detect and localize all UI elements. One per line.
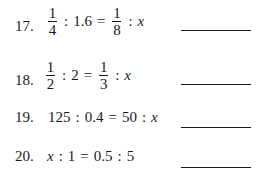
equals-sign: = [80,148,88,165]
problem-number: 20. [15,148,34,165]
problem-number: 17. [15,18,34,35]
fraction: 1 3 [99,60,108,91]
term: 2 [71,67,79,84]
proportion-expression: 125 : 0.4 = 50 : x [48,109,158,126]
numerator: 1 [49,6,57,20]
numerator: 1 [100,60,108,74]
ratio-colon: : [62,67,66,84]
proportion-expression: 1 2 : 2 = 1 3 : x [44,60,131,91]
answer-blank[interactable] [181,167,251,168]
ratio-colon: : [64,13,68,30]
proportion-expression: 1 4 : 1.6 = 1 8 : x [46,6,144,37]
fraction: 1 2 [46,60,55,91]
ratio-colon: : [76,109,80,126]
problem-19: 19. 125 : 0.4 = 50 : x [0,109,278,149]
unknown-term: x [47,148,54,165]
problem-number: 18. [15,72,34,89]
problem-18: 18. 1 2 : 2 = 1 3 : x [0,58,278,98]
problem-number: 19. [15,109,34,126]
equals-sign: = [108,109,116,126]
term: 50 [122,109,137,126]
equals-sign: = [84,67,92,84]
numerator: 1 [113,6,121,20]
answer-blank[interactable] [181,127,251,128]
term: 1 [68,148,76,165]
unknown-term: x [151,109,158,126]
ratio-colon: : [128,13,132,30]
term: 0.4 [85,109,104,126]
unknown-term: x [124,67,131,84]
answer-blank[interactable] [181,84,251,85]
ratio-colon: : [59,148,63,165]
term: 1.6 [73,13,92,30]
denominator: 2 [47,77,55,91]
problem-17: 17. 1 4 : 1.6 = 1 8 : x [0,4,278,44]
ratio-colon: : [142,109,146,126]
proportion-expression: x : 1 = 0.5 : 5 [47,148,134,165]
numerator: 1 [47,60,55,74]
answer-blank[interactable] [181,30,251,31]
term: 5 [127,148,135,165]
denominator: 4 [49,23,57,37]
ratio-colon: : [115,67,119,84]
fraction: 1 8 [112,6,121,37]
denominator: 8 [113,23,121,37]
denominator: 3 [100,77,108,91]
fraction: 1 4 [48,6,57,37]
ratio-colon: : [118,148,122,165]
problem-20: 20. x : 1 = 0.5 : 5 [0,148,278,172]
term: 0.5 [94,148,113,165]
term: 125 [48,109,71,126]
equals-sign: = [97,13,105,30]
unknown-term: x [138,13,145,30]
